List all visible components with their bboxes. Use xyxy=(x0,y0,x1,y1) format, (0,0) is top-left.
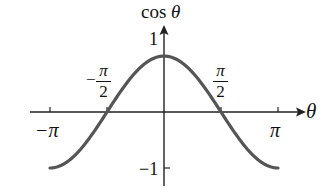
fraction-denominator: 2 xyxy=(216,83,225,100)
y-axis-label-var: θ xyxy=(171,1,180,22)
fraction-numerator: π xyxy=(216,62,225,79)
y-axis-label: cos θ xyxy=(141,2,180,21)
x-axis-label: θ xyxy=(306,101,316,122)
cosine-plot xyxy=(0,0,321,194)
fraction-denominator: 2 xyxy=(99,83,108,100)
fraction-numerator: π xyxy=(99,62,108,79)
x-tick-label-neg-pi: −π xyxy=(35,120,59,140)
neg-sign: − xyxy=(86,71,96,88)
y-tick-label-one: 1 xyxy=(149,30,158,48)
half-pi-fraction: π 2 xyxy=(96,62,111,100)
neg-pi-text: −π xyxy=(35,119,59,141)
x-tick-label-pi: π xyxy=(270,120,280,140)
y-axis-label-func: cos xyxy=(141,1,166,22)
x-tick-label-half-pi: π 2 xyxy=(213,62,228,100)
y-tick-label-neg-one: −1 xyxy=(139,160,158,178)
